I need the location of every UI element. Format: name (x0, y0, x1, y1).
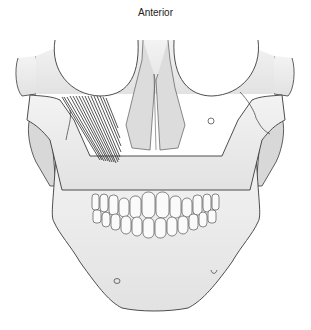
infraorbital-foramen (208, 118, 214, 124)
skull-illustration (0, 0, 311, 330)
